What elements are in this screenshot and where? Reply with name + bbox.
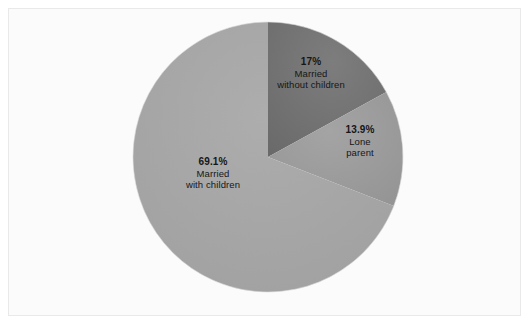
pie-label-line1: Married: [241, 68, 381, 80]
pie-label-line2: parent: [305, 147, 415, 159]
pie-label-line1: Lone: [305, 136, 415, 148]
pie-label-married-without-children: 17% Married without children: [241, 56, 381, 91]
pie-label-percent: 69.1%: [143, 156, 283, 168]
pie-label-lone-parent: 13.9% Lone parent: [305, 124, 415, 159]
chart-page: 17% Married without children 13.9% Lone …: [0, 0, 531, 326]
pie-chart-plot-area: 17% Married without children 13.9% Lone …: [0, 0, 531, 326]
pie-label-percent: 13.9%: [305, 124, 415, 136]
pie-label-married-with-children: 69.1% Married with children: [143, 156, 283, 191]
pie-label-line2: with children: [143, 179, 283, 191]
pie-label-line1: Married: [143, 168, 283, 180]
pie-label-line2: without children: [241, 79, 381, 91]
pie-label-percent: 17%: [241, 56, 381, 68]
